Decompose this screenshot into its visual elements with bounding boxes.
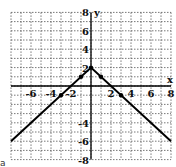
svg-text:-6: -6 xyxy=(78,136,89,147)
graph: -6-4-224688642-4-6-8 x y xyxy=(0,0,176,167)
figure-corner-label: a xyxy=(0,158,6,167)
x-axis-label: x xyxy=(167,74,174,85)
svg-text:-4: -4 xyxy=(78,118,89,129)
y-axis-label: y xyxy=(93,7,101,18)
svg-text:-4: -4 xyxy=(45,88,56,99)
svg-text:-6: -6 xyxy=(25,88,36,99)
svg-text:8: 8 xyxy=(168,88,175,99)
svg-text:6: 6 xyxy=(148,88,155,99)
svg-text:8: 8 xyxy=(82,7,89,18)
svg-text:4: 4 xyxy=(82,44,89,55)
svg-text:6: 6 xyxy=(82,26,89,37)
axes xyxy=(11,12,171,159)
svg-text:2: 2 xyxy=(108,88,115,99)
svg-text:-8: -8 xyxy=(78,155,89,166)
svg-text:4: 4 xyxy=(128,88,135,99)
